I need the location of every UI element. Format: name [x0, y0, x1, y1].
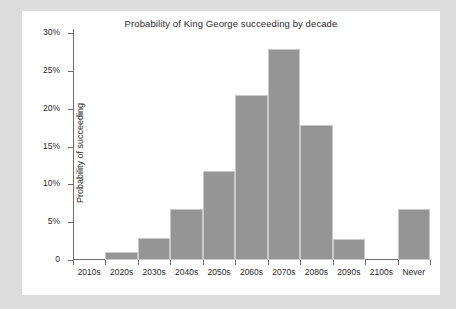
- y-axis-tick: 30%: [68, 33, 73, 34]
- x-axis-tick: [268, 260, 269, 265]
- x-axis-label: 2080s: [305, 267, 328, 277]
- y-axis-tick: 5%: [68, 222, 73, 223]
- bar[interactable]: [398, 209, 430, 260]
- x-axis-tick: [138, 260, 139, 265]
- x-axis-tick: [235, 260, 236, 265]
- x-axis-tick: [73, 260, 74, 265]
- bar[interactable]: [300, 125, 332, 260]
- x-axis-tick: [170, 260, 171, 265]
- chart-page: Probability of King George succeeding by…: [0, 0, 456, 309]
- plot-area: 30%25%20%15%10%5%0 2010s2020s2030s2040s2…: [73, 33, 430, 260]
- x-axis-label: 2070s: [272, 267, 295, 277]
- chart-title: Probability of King George succeeding by…: [22, 18, 440, 29]
- y-axis-tick-label: 30%: [43, 27, 60, 37]
- y-axis-line: [73, 29, 74, 264]
- bar[interactable]: [138, 238, 170, 260]
- y-axis-tick-label: 10%: [43, 178, 60, 188]
- x-axis-tick: [203, 260, 204, 265]
- x-axis-label: 2050s: [207, 267, 230, 277]
- x-axis-tick: [105, 260, 106, 265]
- y-axis-tick: 15%: [68, 147, 73, 148]
- y-axis-tick: 20%: [68, 109, 73, 110]
- bar[interactable]: [268, 49, 300, 260]
- x-axis-tick: [398, 260, 399, 265]
- x-axis-tick: [333, 260, 334, 265]
- x-axis-label: 2040s: [175, 267, 198, 277]
- x-axis-label: 2060s: [240, 267, 263, 277]
- x-axis-label: 2010s: [78, 267, 101, 277]
- x-axis-label: 2100s: [370, 267, 393, 277]
- x-axis-tick: [300, 260, 301, 265]
- x-axis-tick: [365, 260, 366, 265]
- y-axis-tick-label: 15%: [43, 141, 60, 151]
- x-axis-label: 2020s: [110, 267, 133, 277]
- y-axis-tick: 10%: [68, 184, 73, 185]
- x-axis-label: Never: [402, 267, 425, 277]
- bar[interactable]: [170, 209, 202, 260]
- bar[interactable]: [203, 171, 235, 260]
- y-axis-tick-label: 25%: [43, 65, 60, 75]
- y-axis-tick-label: 0: [55, 254, 60, 264]
- chart-card: Probability of King George succeeding by…: [22, 11, 440, 295]
- bar[interactable]: [105, 252, 137, 260]
- bar[interactable]: [333, 239, 365, 260]
- y-axis-tick-label: 20%: [43, 103, 60, 113]
- y-axis-tick: 25%: [68, 71, 73, 72]
- y-axis-tick-label: 5%: [48, 216, 60, 226]
- x-axis-label: 2090s: [337, 267, 360, 277]
- x-axis-label: 2030s: [143, 267, 166, 277]
- x-axis-tick: [430, 260, 431, 265]
- bar[interactable]: [235, 95, 267, 260]
